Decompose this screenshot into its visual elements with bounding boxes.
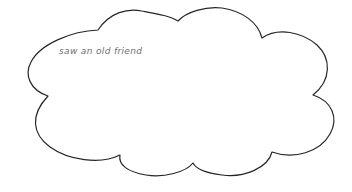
cloud-outline-path <box>28 8 334 176</box>
cloud-caption-text: saw an old friend <box>59 45 259 57</box>
cloud-outline-icon <box>0 0 352 192</box>
cloud-worksheet-canvas: saw an old friend <box>0 0 352 192</box>
